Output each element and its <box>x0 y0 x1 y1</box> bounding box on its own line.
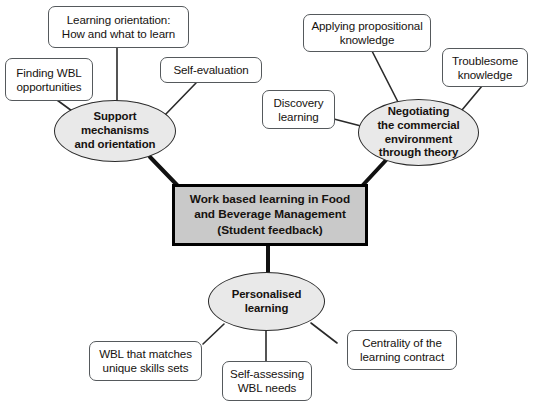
branch-negotiating-commercial-environment[interactable]: Negotiating the commercial environment t… <box>358 99 479 166</box>
branch-personalised-learning[interactable]: Personalised learning <box>208 272 325 331</box>
central-topic-line1: Work based learning in Food <box>190 192 350 207</box>
edge-personalised-centrality-contract <box>311 323 337 343</box>
central-topic-line2: and Beverage Management <box>190 207 350 222</box>
leaf-finding-wbl-line1: Finding WBL <box>16 66 81 80</box>
edge-negotiating-applying-propositional <box>372 51 399 104</box>
leaf-learning-orientation-line1: Learning orientation: <box>62 13 175 27</box>
leaf-self-evaluation-line1: Self-evaluation <box>173 63 248 77</box>
leaf-wbl-that-matches-unique-skills-sets[interactable]: WBL that matches unique skills sets <box>89 341 202 381</box>
leaf-discovery-learning-line1: Discovery <box>274 96 324 110</box>
edge-personalised-wbl-matches-skills <box>203 324 224 344</box>
leaf-troublesome-knowledge-line2: knowledge <box>452 68 518 82</box>
leaf-applying-propositional-knowledge[interactable]: Applying propositional knowledge <box>303 14 431 52</box>
leaf-troublesome-knowledge[interactable]: Troublesome knowledge <box>442 48 528 87</box>
leaf-learning-orientation[interactable]: Learning orientation: How and what to le… <box>48 6 189 48</box>
edge-support-self-evaluation <box>164 83 196 116</box>
leaf-self-assessing-wbl-line2: WBL needs <box>230 381 304 395</box>
leaf-centrality-contract-line1: Centrality of the <box>360 336 444 350</box>
central-topic-line3: (Student feedback) <box>190 223 350 238</box>
leaf-self-evaluation[interactable]: Self-evaluation <box>160 57 262 83</box>
leaf-wbl-matches-skills-line1: WBL that matches <box>99 347 192 361</box>
branch-support-mechanisms[interactable]: Support mechanisms and orientation <box>54 100 176 162</box>
branch-negotiating-line4: through theory <box>377 146 459 160</box>
central-topic-box[interactable]: Work based learning in Food and Beverage… <box>172 184 368 246</box>
edge-negotiating-troublesome-knowledge <box>462 86 482 110</box>
leaf-centrality-of-the-learning-contract[interactable]: Centrality of the learning contract <box>347 330 457 370</box>
branch-negotiating-line2: the commercial <box>377 119 459 133</box>
leaf-discovery-learning-line2: learning <box>274 110 324 124</box>
branch-personalised-line2: learning <box>232 302 302 316</box>
leaf-discovery-learning[interactable]: Discovery learning <box>262 90 335 129</box>
concept-map-figure: Finding WBL opportunities Learning orien… <box>0 0 533 409</box>
leaf-applying-propositional-line2: knowledge <box>311 33 422 47</box>
leaf-self-assessing-wbl-needs[interactable]: Self-assessing WBL needs <box>222 361 312 401</box>
branch-support-line2: mechanisms <box>75 124 156 138</box>
edge-hub-support <box>150 157 178 186</box>
branch-negotiating-line1: Negotiating <box>377 105 459 119</box>
edge-hub-negotiating <box>362 158 388 186</box>
leaf-learning-orientation-line2: How and what to learn <box>62 27 175 41</box>
leaf-centrality-contract-line2: learning contract <box>360 350 444 364</box>
leaf-finding-wbl-opportunities[interactable]: Finding WBL opportunities <box>5 58 93 101</box>
leaf-finding-wbl-line2: opportunities <box>16 80 81 94</box>
branch-negotiating-line3: environment <box>377 133 459 147</box>
branch-personalised-line1: Personalised <box>232 288 302 302</box>
leaf-applying-propositional-line1: Applying propositional <box>311 19 422 33</box>
leaf-troublesome-knowledge-line1: Troublesome <box>452 54 518 68</box>
branch-support-line1: Support <box>75 110 156 124</box>
branch-support-line3: and orientation <box>75 138 156 152</box>
leaf-self-assessing-wbl-line1: Self-assessing <box>230 367 304 381</box>
leaf-wbl-matches-skills-line2: unique skills sets <box>99 361 192 375</box>
